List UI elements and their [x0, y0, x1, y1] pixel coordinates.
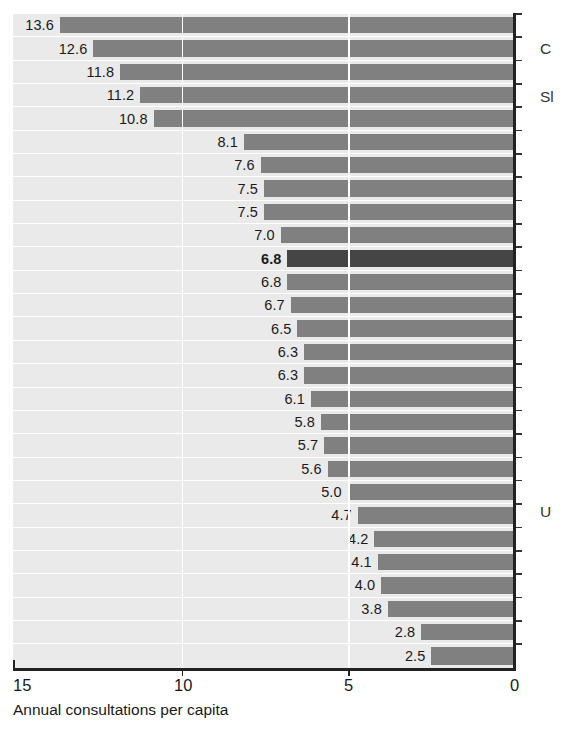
- bar-value-label: 5.8: [294, 414, 314, 430]
- row-tick-mark: [515, 60, 522, 62]
- bar-value-label: 2.8: [395, 624, 415, 640]
- bar-value-label: 6.8: [261, 251, 281, 267]
- bar-value-label: 6.3: [278, 344, 298, 360]
- bar: [304, 344, 515, 360]
- right-edge-country-labels: CSlU: [540, 0, 562, 739]
- bar: [348, 484, 515, 500]
- x-tick-label-10: 10: [174, 676, 192, 695]
- row-tick-mark: [515, 550, 522, 552]
- bar-row: 4.2: [13, 528, 515, 551]
- bar-value-label: 12.6: [59, 41, 88, 57]
- bar: [291, 297, 515, 313]
- country-label-clipped: Sl: [540, 88, 554, 106]
- bar-value-label: 6.3: [278, 367, 298, 383]
- x-tick-label-5: 5: [344, 676, 353, 695]
- bar-value-label: 5.6: [301, 461, 321, 477]
- bar: [378, 554, 515, 570]
- country-label-clipped: U: [540, 503, 551, 521]
- bar-row: 4.1: [13, 551, 515, 574]
- row-tick-mark: [515, 153, 522, 155]
- bar-value-label: 8.1: [217, 134, 237, 150]
- bar-row: 6.8: [13, 247, 515, 270]
- bar-row: 11.8: [13, 61, 515, 84]
- bar: [324, 437, 515, 453]
- row-tick-mark: [515, 527, 522, 529]
- x-axis-line: [13, 668, 516, 671]
- bar-row: 6.5: [13, 317, 515, 340]
- bar-value-label: 3.8: [361, 601, 381, 617]
- row-tick-mark: [515, 13, 522, 15]
- row-tick-mark: [515, 480, 522, 482]
- bar-row: 5.7: [13, 434, 515, 457]
- bar-row: 7.5: [13, 177, 515, 200]
- bar-row: 6.1: [13, 388, 515, 411]
- bar: [244, 134, 515, 150]
- x-tick-label-0: 0: [510, 676, 519, 695]
- bar-row: 6.3: [13, 341, 515, 364]
- bar: [264, 204, 515, 220]
- bar: [261, 157, 515, 173]
- bar-value-label: 7.5: [238, 204, 258, 220]
- bar: [431, 647, 515, 664]
- bar: [140, 87, 515, 103]
- bar-row: 11.2: [13, 84, 515, 107]
- bar-row: 6.7: [13, 294, 515, 317]
- row-tick-mark: [515, 457, 522, 459]
- bar-value-label: 13.6: [25, 17, 54, 33]
- row-tick-mark: [515, 293, 522, 295]
- bar-row: 8.1: [13, 131, 515, 154]
- row-tick-mark: [515, 643, 522, 645]
- bar-value-label: 4.1: [351, 554, 371, 570]
- bar: [154, 110, 515, 126]
- bar-value-label: 4.0: [355, 577, 375, 593]
- bar-value-label: 6.8: [261, 274, 281, 290]
- bar: [421, 624, 515, 640]
- row-tick-mark: [515, 573, 522, 575]
- bar-row: 2.5: [13, 644, 515, 667]
- bar-row: 7.6: [13, 154, 515, 177]
- bar-chart: 13.612.611.811.210.88.17.67.57.57.06.86.…: [0, 0, 562, 739]
- bar-row: 7.0: [13, 224, 515, 247]
- bar-row: 2.8: [13, 621, 515, 644]
- y-axis-zero-line: [513, 13, 516, 669]
- bar-row: 5.6: [13, 458, 515, 481]
- row-tick-mark: [515, 433, 522, 435]
- row-tick-mark: [515, 246, 522, 248]
- bar: [264, 180, 515, 196]
- bar-row: 6.8: [13, 271, 515, 294]
- bar-highlighted: [287, 250, 515, 266]
- row-tick-mark: [515, 130, 522, 132]
- row-tick-mark: [515, 410, 522, 412]
- bar-row: 4.7: [13, 504, 515, 527]
- bar-row: 6.3: [13, 364, 515, 387]
- bar: [328, 461, 515, 477]
- bar: [381, 577, 515, 593]
- bar-row: 5.0: [13, 481, 515, 504]
- bar: [388, 601, 515, 617]
- bar-value-label: 5.7: [298, 437, 318, 453]
- bar: [287, 274, 515, 290]
- bar-value-label: 4.2: [348, 531, 368, 547]
- row-tick-mark: [515, 36, 522, 38]
- bar-value-label: 6.7: [264, 297, 284, 313]
- row-tick-mark: [515, 270, 522, 272]
- bar: [311, 391, 515, 407]
- bar: [120, 64, 515, 80]
- bar: [93, 40, 515, 56]
- bar: [374, 531, 515, 547]
- row-tick-mark: [515, 200, 522, 202]
- country-label-clipped: C: [540, 40, 551, 58]
- bar-value-label: 10.8: [119, 111, 148, 127]
- bar-value-label: 5.0: [321, 484, 341, 500]
- bar-row: 13.6: [13, 14, 515, 37]
- row-tick-mark: [515, 503, 522, 505]
- bar-value-label: 11.2: [107, 87, 135, 103]
- bar: [358, 507, 515, 523]
- row-tick-mark: [515, 387, 522, 389]
- row-tick-mark: [515, 620, 522, 622]
- x-tick-label-15: 15: [13, 676, 31, 695]
- bar: [297, 320, 515, 336]
- row-tick-mark: [515, 316, 522, 318]
- bar-value-label: 2.5: [405, 648, 425, 664]
- bar-value-label: 7.6: [234, 157, 254, 173]
